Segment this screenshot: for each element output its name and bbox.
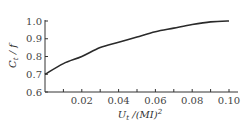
y-tick-label: 0.9 [26,33,42,44]
y-tick-label: 0.6 [26,87,42,98]
y-tick-label: 1.0 [26,16,42,27]
x-tick-label: 0.08 [181,95,203,106]
y-tick-label: 0.8 [26,51,42,62]
axes: 0.60.70.80.91.0 0.020.040.060.080.10 [26,16,240,107]
x-axis-title: Ut /(MI)2 [118,108,163,122]
y-axis-title: Ct / f [7,42,20,68]
x-tick-label: 0.02 [71,95,93,106]
data-curve [45,21,229,74]
y-tick-label: 0.7 [26,69,42,80]
axis-lines [45,20,238,92]
x-tick-label: 0.06 [144,95,166,106]
x-tick-label: 0.10 [218,95,240,106]
x-tick-label: 0.04 [107,95,129,106]
line-chart: 0.60.70.80.91.0 0.020.040.060.080.10 Ct … [0,0,250,131]
